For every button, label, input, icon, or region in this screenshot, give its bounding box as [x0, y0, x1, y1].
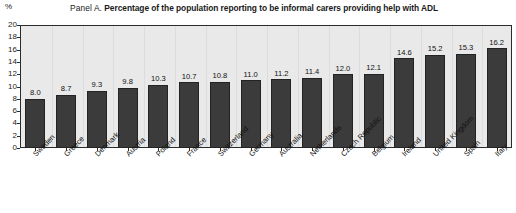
bar-group: 15.2	[420, 25, 451, 148]
y-axis-tick-label: 6	[1, 107, 17, 115]
bar-value-label: 11.2	[274, 70, 288, 78]
x-axis-tick-mark	[312, 148, 313, 151]
bar-value-label: 10.8	[212, 72, 227, 80]
bar-group: 10.3	[143, 25, 174, 148]
bar-group: 9.3	[82, 25, 113, 148]
bar	[302, 78, 322, 148]
bar-group: 9.8	[112, 25, 143, 148]
bar	[179, 82, 199, 148]
x-axis-tick-mark	[281, 148, 282, 151]
chart-title: Panel A. Percentage of the population re…	[70, 2, 500, 14]
x-axis-tick-mark	[251, 148, 252, 151]
bar-value-label: 12.1	[366, 64, 381, 72]
chart-figure: % Panel A. Percentage of the population …	[0, 0, 516, 213]
bar	[118, 88, 138, 148]
bar-series: 8.08.79.39.810.310.710.811.011.211.412.0…	[20, 25, 512, 148]
y-axis-tick-label: 2	[1, 132, 17, 140]
bar-group: 10.7	[174, 25, 205, 148]
y-axis: 02468101214161820	[0, 25, 20, 148]
x-axis-tick-mark	[466, 148, 467, 151]
y-axis-tick-label: 16	[1, 46, 17, 54]
bar	[210, 82, 230, 148]
x-axis-tick-mark	[497, 148, 498, 151]
bar-group: 14.6	[389, 25, 420, 148]
bar-value-label: 14.6	[397, 49, 412, 57]
x-axis-tick-mark	[343, 148, 344, 151]
bar-group: 16.2	[481, 25, 512, 148]
y-axis-tick-label: 12	[1, 70, 17, 78]
bar-group: 11.2	[266, 25, 297, 148]
x-axis-tick-mark	[374, 148, 375, 151]
x-axis-tick-mark	[189, 148, 190, 151]
title-text: Percentage of the population reporting t…	[104, 3, 438, 13]
bar-value-label: 8.7	[61, 85, 72, 93]
bar	[425, 55, 445, 148]
x-axis-tick-mark	[158, 148, 159, 151]
y-axis-tick-label: 20	[1, 21, 17, 29]
y-axis-tick-label: 18	[1, 33, 17, 41]
y-axis-tick-mark	[17, 148, 20, 149]
bar-group: 11.4	[297, 25, 328, 148]
bar-value-label: 9.8	[122, 78, 133, 86]
bar-value-label: 12.0	[335, 65, 350, 73]
bar-value-label: 15.3	[458, 44, 473, 52]
bar-group: 8.7	[51, 25, 82, 148]
y-axis-tick-label: 4	[1, 119, 17, 127]
bar-value-label: 16.2	[489, 39, 504, 47]
bar	[333, 74, 353, 148]
bar	[394, 58, 414, 148]
x-axis-tick-mark	[35, 148, 36, 151]
y-axis-tick-label: 8	[1, 95, 17, 103]
bar-value-label: 11.4	[305, 68, 319, 76]
y-axis-unit-label: %	[5, 2, 12, 12]
x-axis-tick-mark	[128, 148, 129, 151]
bar	[487, 48, 507, 148]
y-axis-tick-label: 14	[1, 58, 17, 66]
bar	[271, 79, 291, 148]
x-axis-tick-mark	[97, 148, 98, 151]
bar	[241, 80, 261, 148]
y-axis-tick-label: 10	[1, 83, 17, 91]
x-axis-tick-mark	[435, 148, 436, 151]
bar-group: 10.8	[205, 25, 236, 148]
bar	[148, 85, 168, 148]
bar-value-label: 11.0	[244, 71, 258, 79]
x-axis-category-labels: SwedenGreeceDenmarkAustriaPolandFranceSw…	[20, 152, 512, 212]
x-axis-tick-mark	[404, 148, 405, 151]
x-axis-tick-mark	[220, 148, 221, 151]
panel-label: Panel A.	[70, 3, 102, 13]
bar-group: 8.0	[20, 25, 51, 148]
y-axis-tick-label: 0	[1, 144, 17, 152]
bar-value-label: 10.3	[151, 75, 166, 83]
x-axis-tick-mark	[66, 148, 67, 151]
bar-value-label: 15.2	[428, 45, 443, 53]
bar-value-label: 9.3	[92, 81, 103, 89]
bar-value-label: 10.7	[182, 73, 197, 81]
bar-value-label: 8.0	[30, 89, 41, 97]
